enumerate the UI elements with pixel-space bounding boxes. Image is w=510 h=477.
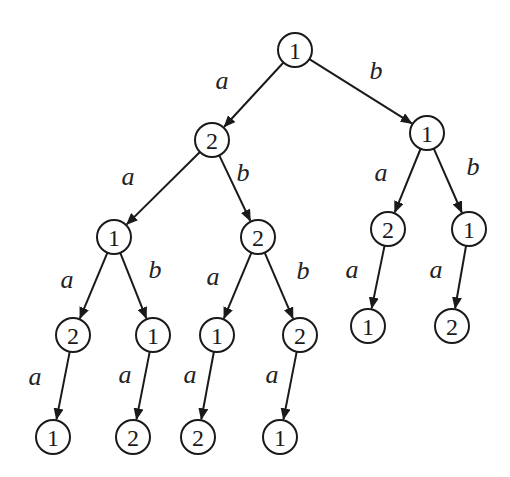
edge-arrow-n1-n3 xyxy=(127,152,200,224)
tree-node-n14: 2 xyxy=(116,420,150,454)
node-label: 1 xyxy=(211,323,223,349)
edge-label: a xyxy=(119,360,132,389)
node-label: 2 xyxy=(446,314,458,340)
node-label: 1 xyxy=(463,217,475,243)
edge-label: a xyxy=(29,362,42,391)
edge-label: b xyxy=(467,152,480,181)
tree-node-n9: 1 xyxy=(200,318,234,352)
tree-node-n2: 1 xyxy=(410,116,444,150)
edge-arrow-n4-n9 xyxy=(224,253,251,319)
node-label: 2 xyxy=(67,323,79,349)
tree-node-n15: 2 xyxy=(181,420,215,454)
node-label: 1 xyxy=(147,323,159,349)
edge-label: a xyxy=(207,262,220,291)
edge-label: b xyxy=(297,256,310,285)
edge-label: a xyxy=(266,360,279,389)
tree-node-n12: 2 xyxy=(435,309,469,343)
edge-label: a xyxy=(430,255,443,284)
edge-arrow-n3-n7 xyxy=(80,253,107,319)
edge-label: a xyxy=(61,265,74,294)
tree-node-n11: 1 xyxy=(351,309,385,343)
node-label: 1 xyxy=(362,314,374,340)
node-label: 1 xyxy=(108,225,120,251)
node-label: 2 xyxy=(294,323,306,349)
edge-arrow-n9-n15 xyxy=(201,352,214,420)
node-label: 1 xyxy=(421,121,433,147)
edge-label: b xyxy=(149,255,162,284)
tree-node-n8: 1 xyxy=(136,318,170,352)
edge-arrow-n5-n11 xyxy=(372,246,385,309)
tree-diagram: abababababaaaaaa 12112212112121221 xyxy=(0,0,510,477)
tree-node-n7: 2 xyxy=(56,318,90,352)
edge-arrow-n4-n10 xyxy=(265,253,293,319)
tree-node-n10: 2 xyxy=(283,318,317,352)
edge-arrow-n0-n2 xyxy=(309,59,411,123)
tree-node-n13: 1 xyxy=(36,420,70,454)
edge-label: b xyxy=(237,158,250,187)
tree-node-n1: 2 xyxy=(195,123,229,157)
tree-node-n5: 2 xyxy=(371,212,405,246)
tree-node-n6: 1 xyxy=(452,212,486,246)
node-label: 1 xyxy=(274,425,286,451)
edge-label: a xyxy=(375,158,388,187)
edge-arrow-n10-n16 xyxy=(283,352,296,420)
node-label: 1 xyxy=(47,425,59,451)
edge-arrow-n7-n13 xyxy=(56,352,69,420)
edge-arrow-n0-n1 xyxy=(224,62,283,126)
tree-diagram-canvas: abababababaaaaaa 12112212112121221 xyxy=(0,0,510,477)
edge-arrow-n6-n12 xyxy=(455,246,466,309)
node-label: 2 xyxy=(192,425,204,451)
edge-arrow-n2-n6 xyxy=(434,149,462,213)
node-label: 2 xyxy=(382,217,394,243)
nodes-layer: 12112212112121221 xyxy=(36,33,486,454)
edge-label: a xyxy=(122,162,135,191)
edge-label: a xyxy=(184,360,197,389)
node-label: 2 xyxy=(206,128,218,154)
node-label: 1 xyxy=(289,38,301,64)
edge-label: a xyxy=(346,255,359,284)
edge-label: b xyxy=(370,56,383,85)
node-label: 2 xyxy=(127,425,139,451)
edge-label: a xyxy=(216,66,229,95)
tree-node-n0: 1 xyxy=(278,33,312,67)
tree-node-n3: 1 xyxy=(97,220,131,254)
edge-arrow-n8-n14 xyxy=(136,352,149,420)
tree-node-n4: 2 xyxy=(241,220,275,254)
edge-arrow-n2-n5 xyxy=(395,149,421,213)
edge-arrow-n3-n8 xyxy=(120,253,146,318)
node-label: 2 xyxy=(252,225,264,251)
tree-node-n16: 1 xyxy=(263,420,297,454)
